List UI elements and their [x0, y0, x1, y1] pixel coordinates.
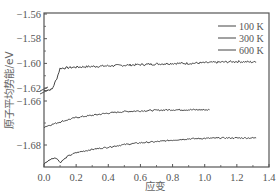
y-tick-label: −1.56 — [17, 9, 41, 20]
series-line-300k — [44, 109, 210, 127]
plot-frame — [40, 13, 269, 167]
y-tick-label: −1.68 — [17, 140, 41, 151]
series-line-100k — [44, 61, 256, 92]
x-tick-label: 0.8 — [166, 172, 179, 183]
y-axis-title: 原子平均势能/eV — [3, 51, 15, 129]
y-tick-label: −1.62 — [17, 83, 41, 94]
y-tick-label: −1.60 — [17, 58, 41, 69]
x-tick-label: 0.0 — [37, 172, 50, 183]
x-tick-label: 1.0 — [198, 172, 211, 183]
series-line-600k — [44, 137, 256, 163]
x-tick-label: 0.4 — [102, 172, 116, 183]
legend: 100 K300 K600 K — [218, 21, 265, 56]
legend-label: 300 K — [239, 33, 265, 44]
x-tick-label: 1.4 — [262, 172, 276, 183]
x-tick-label: 1.2 — [230, 172, 243, 183]
x-axis-title: 应变 — [145, 180, 166, 192]
legend-label: 600 K — [239, 45, 265, 56]
y-axis: −1.56−1.58−1.60−1.62−1.66−1.68 — [17, 9, 47, 151]
line-chart: 0.00.20.40.60.81.01.21.4 −1.56−1.58−1.60… — [0, 0, 277, 194]
x-tick-label: 0.2 — [70, 172, 83, 183]
y-tick-label: −1.66 — [17, 96, 41, 107]
legend-label: 100 K — [239, 21, 265, 32]
y-tick-label: −1.58 — [17, 33, 41, 44]
series-layer — [44, 61, 256, 164]
plot-border — [44, 13, 269, 167]
